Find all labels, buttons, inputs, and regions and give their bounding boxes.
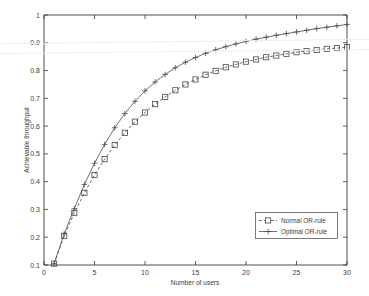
y-tick-label: 0.9 bbox=[30, 39, 40, 46]
y-tick-label: 0.5 bbox=[30, 150, 40, 157]
y-tick-label: 0.8 bbox=[30, 67, 40, 74]
y-axis-label: Achievable throughput bbox=[23, 107, 31, 173]
x-tick-label: 20 bbox=[242, 269, 250, 276]
y-tick-label: 0.4 bbox=[30, 178, 40, 185]
y-tick-label: 1 bbox=[36, 12, 40, 19]
legend-label-optimal-or-rule: Optimal OR-rule bbox=[281, 228, 328, 236]
y-tick-label: 0.3 bbox=[30, 206, 40, 213]
x-tick-label: 25 bbox=[293, 269, 301, 276]
x-tick-label: 0 bbox=[42, 269, 46, 276]
x-tick-label: 5 bbox=[93, 269, 97, 276]
y-tick-label: 0.6 bbox=[30, 123, 40, 130]
achievable-throughput-line-chart: 051015202530 0.10.20.30.40.50.60.70.80.9… bbox=[0, 0, 369, 296]
legend-label-normal-or-rule: Normal OR-rule bbox=[281, 217, 326, 224]
chart-legend[interactable]: Normal OR-rule Optimal OR-rule bbox=[256, 213, 338, 239]
y-tick-label: 0.7 bbox=[30, 95, 40, 102]
x-tick-label: 15 bbox=[192, 269, 200, 276]
x-tick-label: 30 bbox=[343, 269, 351, 276]
x-tick-label: 10 bbox=[141, 269, 149, 276]
y-tick-label: 0.1 bbox=[30, 262, 40, 269]
chart-figure: 051015202530 0.10.20.30.40.50.60.70.80.9… bbox=[0, 0, 369, 296]
x-axis-label: Number of users bbox=[171, 279, 220, 286]
y-tick-label: 0.2 bbox=[30, 234, 40, 241]
